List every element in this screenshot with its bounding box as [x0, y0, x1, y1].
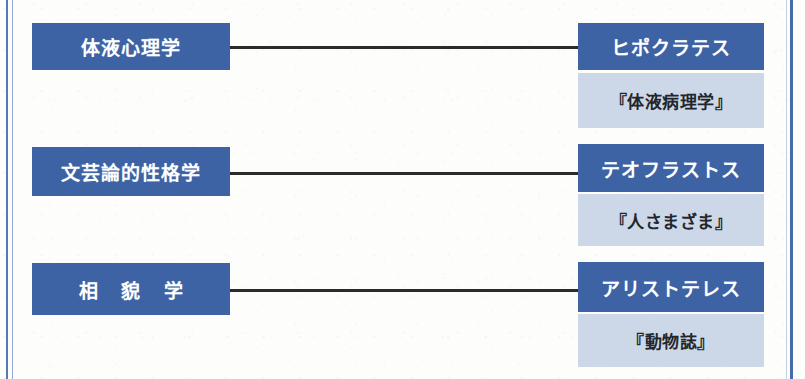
philosopher-box-row-2[interactable]: テオフラストス — [578, 144, 764, 192]
work-label-row-2: 『人さまざま』 — [610, 208, 733, 233]
philosopher-label-row-1: ヒポクラテス — [611, 33, 731, 60]
work-label-row-1: 『体液病理学』 — [610, 88, 733, 113]
philosopher-box-row-1[interactable]: ヒポクラテス — [578, 23, 764, 70]
connector-line-row-1 — [230, 46, 578, 49]
discipline-box-row-1[interactable]: 体液心理学 — [32, 23, 230, 70]
discipline-label-row-3: 相 貌 学 — [70, 276, 192, 303]
discipline-box-row-3[interactable]: 相 貌 学 — [32, 263, 230, 315]
discipline-label-row-1: 体液心理学 — [81, 33, 181, 60]
philosopher-label-row-3: アリストテレス — [601, 274, 741, 301]
work-box-row-2[interactable]: 『人さまざま』 — [578, 194, 764, 246]
connector-line-row-3 — [230, 289, 578, 292]
frame-rule-left-outer — [6, 0, 8, 379]
discipline-box-row-2[interactable]: 文芸論的性格学 — [32, 147, 230, 196]
discipline-label-row-2: 文芸論的性格学 — [61, 158, 201, 185]
diagram-canvas: 体液心理学 ヒポクラテス 『体液病理学』 文芸論的性格学 テオフラストス 『人さ… — [0, 0, 805, 379]
work-label-row-3: 『動物誌』 — [627, 328, 715, 353]
work-box-row-1[interactable]: 『体液病理学』 — [578, 73, 764, 128]
philosopher-label-row-2: テオフラストス — [601, 155, 741, 182]
frame-rule-right-inner — [786, 0, 787, 379]
frame-rule-left-inner — [12, 0, 13, 379]
connector-line-row-2 — [230, 172, 578, 175]
philosopher-box-row-3[interactable]: アリストテレス — [578, 262, 764, 312]
work-box-row-3[interactable]: 『動物誌』 — [578, 314, 764, 367]
frame-rule-right-outer — [790, 0, 793, 379]
